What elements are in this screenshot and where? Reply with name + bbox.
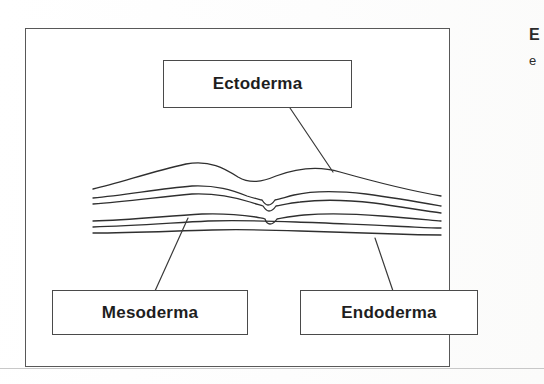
margin-body-fragment: e bbox=[529, 52, 544, 69]
callout-box-endoderma[interactable]: Endoderma bbox=[300, 290, 478, 335]
margin-heading-fragment: E bbox=[529, 26, 544, 44]
margin-text-column: E e bbox=[529, 26, 544, 69]
callout-label-endoderma: Endoderma bbox=[341, 303, 436, 323]
scanned-page: Ectoderma Mesoderma Endoderma E e bbox=[0, 0, 544, 384]
callout-label-ectoderma: Ectoderma bbox=[213, 74, 303, 94]
page-bottom-rule bbox=[0, 368, 544, 369]
callout-label-mesoderma: Mesoderma bbox=[102, 303, 198, 323]
callout-box-mesoderma[interactable]: Mesoderma bbox=[52, 290, 248, 335]
callout-box-ectoderma[interactable]: Ectoderma bbox=[163, 60, 352, 108]
